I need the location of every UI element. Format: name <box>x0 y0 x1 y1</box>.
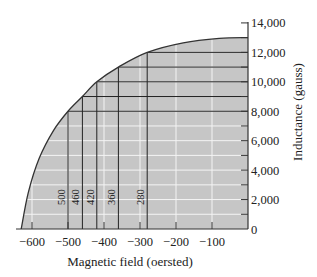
y-tick-label: 12,000 <box>251 46 285 60</box>
x-tick-label: −400 <box>91 235 117 249</box>
field-value-label: 280 <box>135 189 146 205</box>
field-value-label: 460 <box>70 189 81 205</box>
y-axis-title: Inductance (gauss) <box>290 63 305 161</box>
y-tick-label: 10,000 <box>251 75 285 89</box>
bh-curve-chart: −600−500−400−300−200−100 02,0004,0006,00… <box>0 0 317 277</box>
y-tick-label: 0 <box>251 223 257 237</box>
x-tick-label: −600 <box>19 235 45 249</box>
y-tick-label: 6,000 <box>251 134 279 148</box>
y-tick-label: 14,000 <box>251 16 285 30</box>
y-tick-label: 4,000 <box>251 164 279 178</box>
x-tick-label: −100 <box>199 235 225 249</box>
x-tick-label: −500 <box>55 235 81 249</box>
x-tick-label: −300 <box>127 235 153 249</box>
x-axis-title: Magnetic field (oersted) <box>67 254 193 269</box>
y-tick-label: 8,000 <box>251 105 279 119</box>
field-value-label: 360 <box>106 189 117 205</box>
field-value-label: 500 <box>56 189 67 205</box>
field-value-label: 420 <box>85 189 96 205</box>
y-tick-label: 2,000 <box>251 193 279 207</box>
x-tick-label: −200 <box>163 235 189 249</box>
